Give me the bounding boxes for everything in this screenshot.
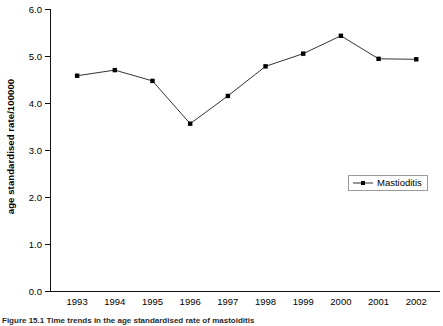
data-point-marker <box>339 34 343 38</box>
data-point-marker <box>301 51 305 55</box>
series-plot-area <box>0 0 443 326</box>
chart-legend: Mastioditis <box>348 175 428 191</box>
data-point-marker <box>376 57 380 61</box>
series-line-mastioditis <box>77 36 416 124</box>
series-markers-mastioditis <box>75 34 419 126</box>
figure-caption: Figure 15.1 Time trends in the age stand… <box>2 316 254 326</box>
figure-mastoiditis-trend: age standardised rate/100000 0.01.02.03.… <box>0 0 443 326</box>
data-point-marker <box>414 57 418 61</box>
data-point-marker <box>263 64 267 68</box>
data-point-marker <box>188 121 192 125</box>
legend-label-mastioditis: Mastioditis <box>377 178 422 188</box>
legend-line-marker-icon <box>352 178 374 188</box>
data-point-marker <box>113 68 117 72</box>
data-point-marker <box>75 74 79 78</box>
data-point-marker <box>150 79 154 83</box>
data-point-marker <box>226 94 230 98</box>
